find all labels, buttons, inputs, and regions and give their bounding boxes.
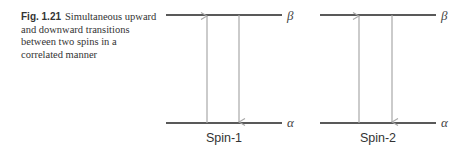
spin-1-panel: β α Spin-1 <box>166 8 295 145</box>
spin-2-label: Spin-2 <box>360 131 396 145</box>
spin-2-alpha-label: α <box>441 115 449 130</box>
spin-1-label: Spin-1 <box>206 131 242 145</box>
energy-level-diagram: β α Spin-1 β α Spin-2 <box>0 0 473 156</box>
spin-2-beta-label: β <box>440 8 448 23</box>
spin-1-alpha-label: α <box>287 115 295 130</box>
spin-2-panel: β α Spin-2 <box>320 8 449 145</box>
spin-1-beta-label: β <box>286 8 294 23</box>
